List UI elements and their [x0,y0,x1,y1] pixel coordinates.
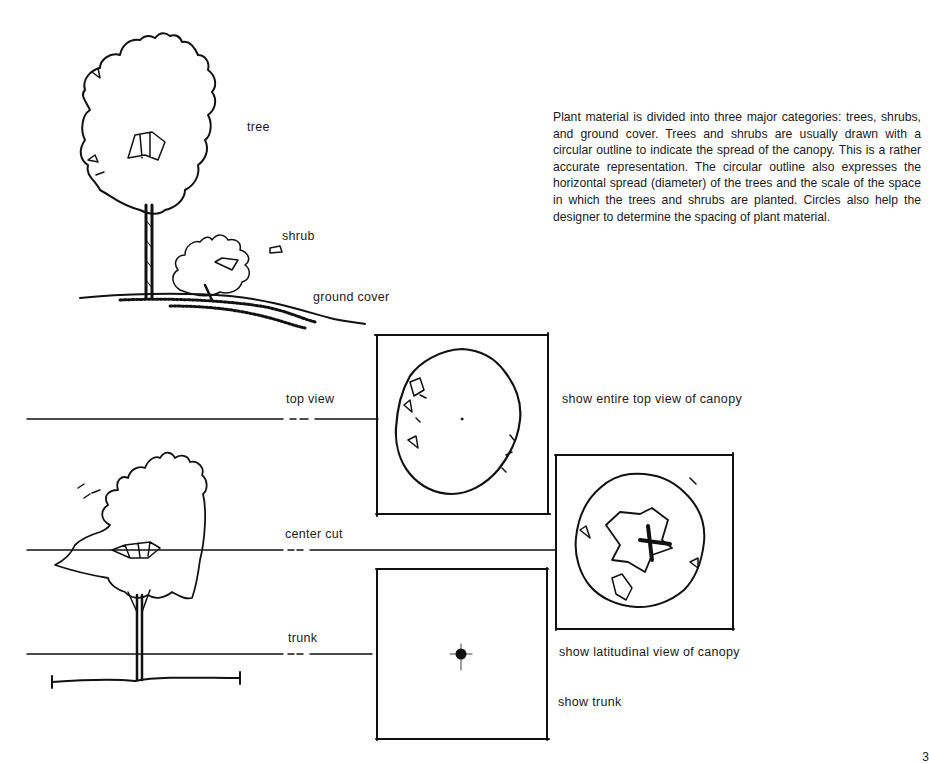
caption-trunk: show trunk [558,695,621,709]
page-number: 3 [922,750,929,764]
tree-elevation-sketch [81,33,215,298]
trunk-view-box [376,568,549,740]
intro-paragraph: Plant material is divided into three maj… [553,109,921,225]
label-tree: tree [247,120,270,134]
label-shrub: shrub [282,229,315,243]
caption-top-view: show entire top view of canopy [562,392,742,406]
top-view-box [375,333,550,516]
label-ground-cover: ground cover [313,290,390,304]
latitudinal-view-box [555,453,734,630]
label-center-cut: center cut [285,527,343,541]
label-top-view: top view [286,392,334,406]
label-trunk: trunk [288,631,317,645]
caption-latitudinal: show latitudinal view of canopy [559,645,740,659]
shrub-elevation-sketch [173,235,282,300]
tree-section-sketch [52,453,240,688]
